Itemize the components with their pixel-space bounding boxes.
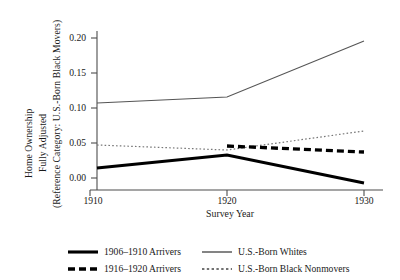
legend-swatch-dotted-thin: [202, 264, 232, 274]
legend-label: 1906–1910 Arrivers: [104, 246, 181, 257]
x-tick-label: 1910: [83, 196, 102, 206]
x-axis-tick-labels: 1910 1920 1930: [0, 0, 400, 230]
chart-figure: Home Ownership Fully Adjusted (Reference…: [0, 0, 400, 280]
x-tick-label: 1930: [354, 196, 373, 206]
legend-label: U.S.-Born Whites: [238, 246, 307, 257]
x-axis-title: Survey Year: [0, 208, 400, 219]
x-tick-label: 1920: [217, 196, 236, 206]
legend-swatch-solid-thick: [68, 247, 98, 257]
legend-item-us-born-whites: U.S.-Born Whites: [202, 244, 307, 259]
x-axis-title-text: Survey Year: [206, 208, 254, 219]
chart-legend: 1906–1910 Arrivers 1916–1920 Arrivers U.…: [60, 244, 400, 278]
legend-item-1906-1910-arrivers: 1906–1910 Arrivers: [68, 244, 181, 259]
legend-label: U.S.-Born Black Nonmovers: [238, 263, 349, 274]
legend-swatch-dashed-thick: [68, 264, 98, 274]
legend-item-1916-1920-arrivers: 1916–1920 Arrivers: [68, 261, 181, 276]
legend-swatch-solid-thin: [202, 247, 232, 257]
legend-label: 1916–1920 Arrivers: [104, 263, 181, 274]
legend-item-us-born-black-nonmovers: U.S.-Born Black Nonmovers: [202, 261, 349, 276]
